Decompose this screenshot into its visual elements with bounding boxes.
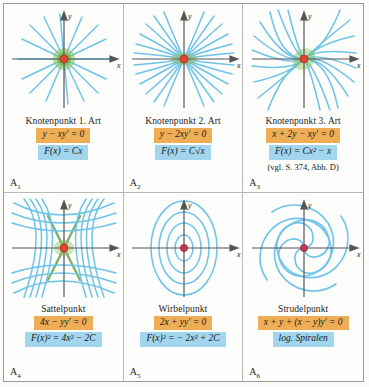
panel-a2: x y A2 Knotenpunkt 2. Art y − 2xy′ = 0 F… [124, 4, 244, 193]
x-axis-label: x [236, 250, 241, 259]
panel-label-a2: A2 [130, 177, 141, 191]
plot-a4-svg: x y [4, 195, 123, 303]
y-axis-label: y [307, 201, 312, 210]
singular-point-marker [300, 55, 308, 63]
singular-point-marker [60, 55, 68, 63]
panel-note-a3: (vgl. S. 374, Abb. D) [267, 162, 338, 172]
figure-root: x y A1 Knotenpunkt 1. Art y − xy′ = 0 F(… [0, 0, 369, 387]
plot-a1: x y [4, 6, 123, 114]
panel-label-index-a6: 6 [257, 372, 261, 380]
panel-solution-a2: F(x) = C√x [155, 145, 210, 160]
panel-solution-a4: F(x)² = 4x² − 2C [25, 332, 101, 347]
panel-label-a4: A4 [10, 366, 21, 380]
plot-a5: x y [124, 195, 243, 303]
panel-equation-a1: y − xy′ = 0 [36, 128, 90, 143]
panel-label-index-a3: 3 [257, 183, 261, 191]
panel-label-index-a4: 4 [17, 372, 21, 380]
plot-a2: x y [124, 6, 243, 114]
panel-label-a5: A5 [130, 366, 141, 380]
x-axis-label: x [236, 61, 241, 70]
panel-label-index-a2: 2 [137, 183, 141, 191]
plot-a2-svg: x y [124, 6, 243, 114]
y-axis-label: y [67, 12, 72, 21]
y-axis-label: y [307, 12, 312, 21]
panel-caption-a4: Sattelpunkt [41, 304, 85, 314]
panel-a5: x y A5 Wirbelpunkt 2x + yy′ = 0 F(x)² = … [124, 193, 244, 382]
plot-a3: x y [244, 6, 363, 114]
panel-solution-a6: log. Spiralen [273, 332, 334, 347]
plot-a4: x y [4, 195, 123, 303]
caption-block-a6: Strudelpunkt x + y + (x − y)y′ = 0 log. … [258, 303, 349, 348]
panel-label-a3: A3 [249, 177, 260, 191]
panel-caption-a3: Knotenpunkt 3. Art [265, 116, 340, 126]
y-axis-label: y [187, 12, 192, 21]
singular-point-marker [180, 55, 188, 63]
y-axis-label: y [187, 201, 192, 210]
panel-a1: x y A1 Knotenpunkt 1. Art y − xy′ = 0 F(… [4, 4, 124, 193]
panel-equation-a4: 4x − yy′ = 0 [34, 316, 93, 331]
panel-equation-a5: 2x + yy′ = 0 [154, 316, 213, 331]
x-axis-label: x [356, 250, 361, 259]
singular-point-marker [300, 244, 307, 251]
panel-label-index-a5: 5 [137, 372, 141, 380]
panel-label-a6: A6 [249, 366, 260, 380]
panel-a4: x y A4 Sattelpunkt 4x − yy′ = 0 F(x)² = … [4, 193, 124, 382]
x-axis-label: x [116, 250, 121, 259]
caption-block-a5: Wirbelpunkt 2x + yy′ = 0 F(x)² = − 2x² +… [140, 303, 225, 348]
y-axis-label: y [67, 201, 72, 210]
caption-block-a2: Knotenpunkt 2. Art y − 2xy′ = 0 F(x) = C… [145, 115, 220, 160]
panel-label-a1: A1 [10, 177, 21, 191]
x-axis-label: x [116, 61, 121, 70]
panel-caption-a1: Knotenpunkt 1. Art [26, 116, 101, 126]
panel-solution-a1: F(x) = Cx [38, 145, 88, 160]
plot-a3-svg: x y [244, 6, 363, 114]
panel-a3: x y A3 Knotenpunkt 3. Art x + 2y − xy′ =… [243, 4, 363, 193]
plot-a5-svg: x y [124, 195, 243, 303]
panel-caption-a2: Knotenpunkt 2. Art [145, 116, 220, 126]
panel-equation-a6: x + y + (x − y)y′ = 0 [258, 316, 349, 331]
panel-a6: x y A6 Strudelpunkt x + y + (x − y)y′ = … [243, 193, 363, 382]
caption-block-a4: Sattelpunkt 4x − yy′ = 0 F(x)² = 4x² − 2… [25, 303, 101, 348]
panel-grid: x y A1 Knotenpunkt 1. Art y − xy′ = 0 F(… [4, 4, 363, 381]
panel-solution-a3: F(x) = Cx² − x [269, 145, 337, 160]
panel-equation-a2: y − 2xy′ = 0 [154, 128, 213, 143]
panel-caption-a6: Strudelpunkt [278, 304, 328, 314]
panel-label-index-a1: 1 [17, 183, 21, 191]
singular-point-marker [180, 244, 187, 251]
panel-equation-a3: x + 2y − xy′ = 0 [266, 128, 340, 143]
plot-a6: x y [244, 195, 363, 303]
plot-a1-svg: x y [4, 6, 123, 114]
singular-point-marker [60, 244, 68, 252]
plot-a6-svg: x y [244, 195, 363, 303]
panel-solution-a5: F(x)² = − 2x² + 2C [140, 332, 225, 347]
caption-block-a3: Knotenpunkt 3. Art x + 2y − xy′ = 0 F(x)… [265, 115, 340, 172]
caption-block-a1: Knotenpunkt 1. Art y − xy′ = 0 F(x) = Cx [26, 115, 101, 160]
x-axis-label: x [356, 61, 361, 70]
panel-caption-a5: Wirbelpunkt [159, 304, 208, 314]
